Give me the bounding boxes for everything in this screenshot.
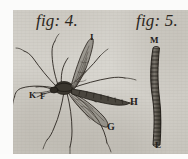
label-H-abdomen-tip: H [130,97,138,106]
paper-margin-left [0,0,13,159]
label-F-proboscis: F [40,92,46,101]
label-I-forewing: I [90,33,94,42]
engraving-plate: fig: 4. fig: 5. I K F G H M L [0,0,188,159]
label-L-larva-tail: L [155,141,161,150]
label-K-antenna: K [29,91,36,100]
paper-margin-top [0,0,188,10]
fig-4-caption: fig: 4. [36,11,78,31]
fig-5-larva [146,44,167,148]
label-M-larva-head: M [150,36,159,45]
fig-5-caption: fig: 5. [136,11,178,31]
crane-fly-head [35,87,58,97]
label-G-lower-wing: G [107,122,115,131]
paper-margin-bottom [0,154,188,159]
crane-fly-forewing-upper [71,38,93,89]
